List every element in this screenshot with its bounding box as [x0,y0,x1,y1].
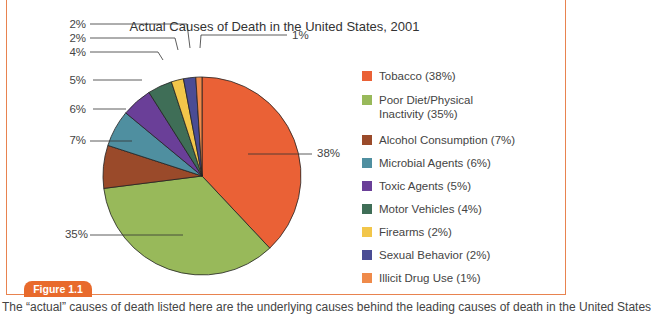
legend-label: Poor Diet/Physical [379,94,473,106]
legend-item-motor: Motor Vehicles (4%) [362,202,542,216]
slice-label: 38% [317,147,340,159]
swatch-icon [362,250,372,260]
slice-label: 2% [69,18,86,30]
slice-label: 7% [69,134,86,146]
legend-label-line2: Inactivity (35%) [379,108,458,120]
legend-item-alcohol: Alcohol Consumption (7%) [362,133,542,147]
swatch-icon [362,273,372,283]
legend-item-sexual: Sexual Behavior (2%) [362,248,542,262]
swatch-icon [362,71,372,81]
leader-line [90,38,178,50]
legend-item-microbial: Microbial Agents (6%) [362,156,542,170]
swatch-icon [362,135,372,145]
slice-label: 35% [65,228,88,240]
figure-tab: Figure 1.1 [24,281,92,297]
slice-label: 4% [69,46,86,58]
swatch-icon [362,95,372,105]
slice-label: 2% [69,32,86,44]
legend-item-tobacco: Tobacco (38%) [362,69,542,83]
legend-item-firearms: Firearms (2%) [362,225,542,239]
slice-label: 5% [69,74,86,86]
leader-line [90,52,163,60]
leader-line [200,35,287,48]
figure-caption: The “actual” causes of death listed here… [2,300,651,314]
leader-line [90,24,190,48]
legend-item-drugs: Illicit Drug Use (1%) [362,271,542,285]
swatch-icon [362,158,372,168]
swatch-icon [362,227,372,237]
swatch-icon [362,204,372,214]
legend-item-toxic: Toxic Agents (5%) [362,179,542,193]
legend-item-poor-diet: Poor Diet/PhysicalInactivity (35%) [362,93,542,121]
swatch-icon [362,181,372,191]
slice-label: 6% [69,103,86,115]
slice-label: 1% [292,29,309,41]
